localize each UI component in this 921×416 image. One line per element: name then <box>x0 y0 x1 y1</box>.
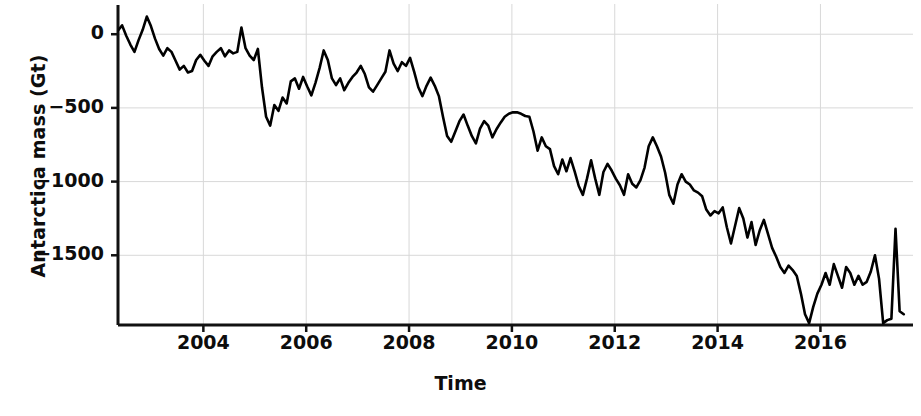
x-tick-label: 2014 <box>673 331 763 353</box>
data-line-antarctica-mass <box>118 17 904 324</box>
chart-figure: Antarctica mass (Gt) Time 0−500−1000−150… <box>0 0 921 416</box>
y-tick-label: 0 <box>8 21 104 43</box>
axis-tick-marks <box>111 34 820 332</box>
x-axis-label: Time <box>0 372 921 394</box>
x-tick-label: 2006 <box>261 331 351 353</box>
x-tick-label: 2012 <box>570 331 660 353</box>
y-tick-label: −500 <box>8 95 104 117</box>
y-tick-label: −1000 <box>8 169 104 191</box>
x-tick-label: 2008 <box>364 331 454 353</box>
x-tick-label: 2004 <box>158 331 248 353</box>
x-tick-label: 2010 <box>467 331 557 353</box>
x-tick-label: 2016 <box>775 331 865 353</box>
line-chart-canvas <box>0 0 921 416</box>
y-tick-label: −1500 <box>8 242 104 264</box>
